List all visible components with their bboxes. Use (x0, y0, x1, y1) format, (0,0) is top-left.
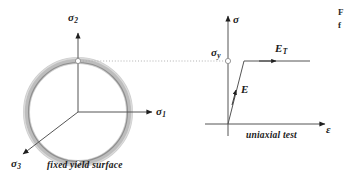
clipped-text-fragment-line1: F (338, 8, 344, 17)
yield-stress-label: σy (211, 47, 221, 60)
yield-stress-marker (225, 58, 230, 63)
uniaxial-test-caption: uniaxial test (246, 131, 297, 141)
yield-surface-diagram (23, 33, 152, 166)
elastic-modulus-label: E (241, 84, 248, 95)
yield-point-marker-top (75, 58, 80, 63)
tangent-modulus-label-subscript: T (283, 47, 288, 56)
sigma3-axis-label-subscript: 3 (17, 162, 21, 171)
fixed-yield-surface-caption: fixed yield surface (47, 161, 123, 171)
sigma2-axis-label-subscript: 2 (74, 16, 78, 25)
sigma1-axis-label: σ1 (156, 106, 166, 119)
sigma-axis-label: σ (233, 14, 239, 25)
sigma1-axis-label-subscript: 1 (162, 110, 166, 119)
figure-canvas: σ2 σ1 σ3 fixed yield surface σ σy E ET ε… (0, 0, 344, 181)
sigma3-axis-label: σ3 (11, 158, 21, 171)
tangent-modulus-label: ET (275, 43, 287, 56)
sigma2-axis-label: σ2 (68, 12, 78, 25)
tangent-modulus-label-symbol: E (275, 42, 282, 54)
uniaxial-test-diagram (205, 16, 325, 136)
clipped-text-fragment-line2: f (338, 21, 341, 30)
elastic-modulus-arrow (232, 90, 236, 105)
epsilon-axis-label: ε (326, 124, 331, 135)
figure-vector-layer (0, 0, 344, 181)
yield-stress-label-subscript: y (217, 51, 220, 60)
